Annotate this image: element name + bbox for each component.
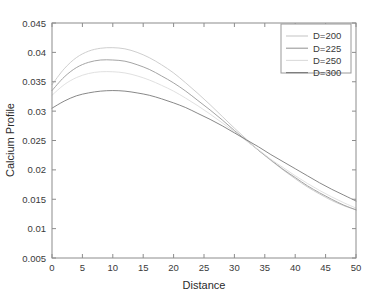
legend-label: D=225 [313,43,341,54]
y-tick-label: 0.03 [28,106,47,117]
y-axis-title: Calcium Profile [4,103,16,177]
legend-label: D=250 [313,55,341,66]
x-tick-label: 30 [229,262,240,273]
y-axis-tick-labels: 0.0050.010.0150.020.0250.030.0350.040.04… [22,18,46,264]
x-tick-label: 20 [168,262,179,273]
x-axis-title: Distance [183,279,226,291]
legend-label: D=200 [313,30,341,41]
legend[interactable]: D=200D=225D=250D=300 [281,24,351,78]
y-tick-label: 0.04 [28,47,47,58]
y-tick-label: 0.02 [28,164,47,175]
x-tick-label: 15 [138,262,149,273]
legend-label: D=300 [313,67,341,78]
x-tick-label: 35 [260,262,271,273]
chart-svg: 05101520253035404550 0.0050.010.0150.020… [0,0,368,296]
x-tick-label: 45 [320,262,331,273]
x-tick-label: 50 [351,262,362,273]
y-tick-label: 0.005 [22,253,46,264]
y-tick-label: 0.01 [28,223,47,234]
x-tick-label: 10 [108,262,119,273]
y-tick-label: 0.025 [22,135,46,146]
y-tick-label: 0.045 [22,18,46,29]
figure-canvas: 05101520253035404550 0.0050.010.0150.020… [0,0,368,296]
x-tick-label: 0 [49,262,54,273]
y-tick-label: 0.035 [22,76,46,87]
x-tick-label: 40 [290,262,301,273]
x-axis-tick-labels: 05101520253035404550 [49,262,361,273]
x-tick-label: 25 [199,262,210,273]
y-tick-label: 0.015 [22,194,46,205]
x-tick-label: 5 [80,262,85,273]
